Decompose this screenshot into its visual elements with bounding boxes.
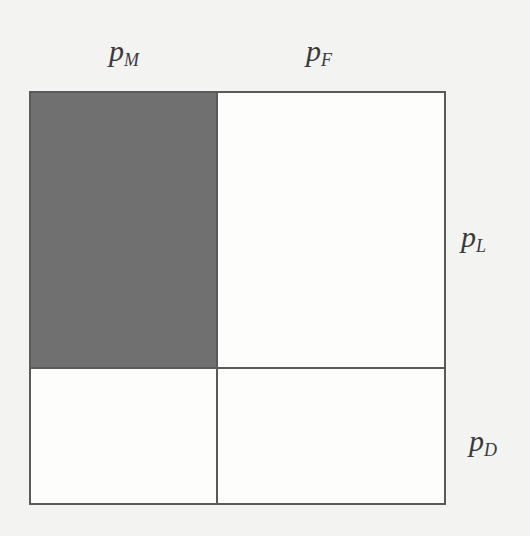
- label-p-l-base: p: [461, 220, 476, 253]
- label-p-f-subscript: F: [321, 50, 332, 70]
- vertical-divider: [216, 91, 218, 505]
- label-p-m-base: p: [109, 34, 124, 67]
- label-p-l-subscript: L: [476, 236, 486, 256]
- label-p-f-base: p: [306, 34, 321, 67]
- label-p-f: pF: [306, 36, 332, 69]
- label-p-d: pD: [469, 426, 497, 459]
- label-p-m: pM: [109, 36, 139, 69]
- shaded-region-pm-pl: [29, 91, 218, 369]
- label-p-m-subscript: M: [124, 50, 139, 70]
- horizontal-divider: [29, 367, 446, 369]
- label-p-d-subscript: D: [484, 440, 497, 460]
- label-p-l: pL: [461, 222, 486, 255]
- label-p-d-base: p: [469, 424, 484, 457]
